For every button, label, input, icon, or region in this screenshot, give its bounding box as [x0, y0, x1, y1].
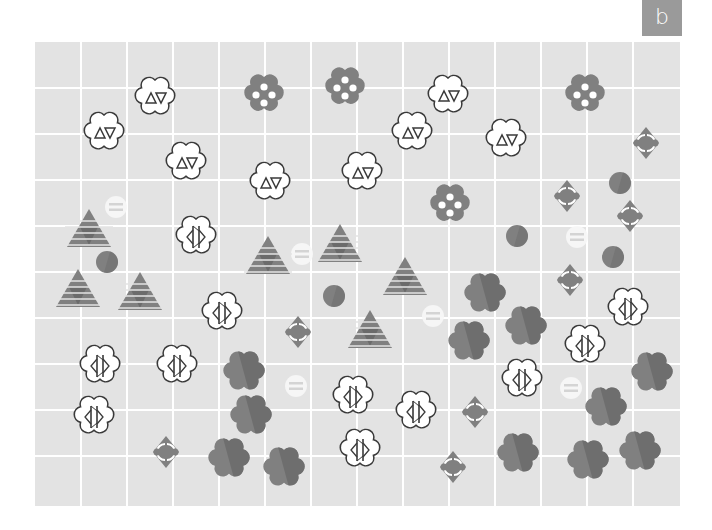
- slash-flower-icon: [202, 292, 241, 328]
- slash-flower-icon: [340, 429, 379, 465]
- striped-circle-icon: [291, 243, 313, 265]
- slash-flower-icon: [74, 396, 113, 432]
- solid-circle-icon: [609, 172, 631, 194]
- striped-circle-icon: [105, 196, 127, 218]
- striped-circle-icon: [560, 377, 582, 399]
- solid-circle-icon: [602, 246, 624, 268]
- slash-flower-icon: [157, 345, 196, 381]
- solid-circle-icon: [506, 225, 528, 247]
- shape-board: [0, 0, 712, 530]
- triangle-flower-icon: [428, 75, 467, 111]
- slash-flower-icon: [502, 359, 541, 395]
- triangle-flower-icon: [392, 112, 431, 148]
- slash-flower-icon: [176, 216, 215, 252]
- triangle-flower-icon: [342, 152, 381, 188]
- slash-flower-icon: [565, 325, 604, 361]
- slash-flower-icon: [80, 345, 119, 381]
- triangle-flower-icon: [135, 77, 174, 113]
- triangle-flower-icon: [250, 162, 289, 198]
- solid-circle-icon: [96, 251, 118, 273]
- solid-circle-icon: [323, 285, 345, 307]
- triangle-flower-icon: [84, 112, 123, 148]
- triangle-flower-icon: [486, 119, 525, 155]
- slash-flower-icon: [333, 376, 372, 412]
- slash-flower-icon: [608, 288, 647, 324]
- striped-circle-icon: [422, 305, 444, 327]
- triangle-flower-icon: [166, 142, 205, 178]
- striped-circle-icon: [285, 375, 307, 397]
- striped-circle-icon: [566, 226, 588, 248]
- slash-flower-icon: [396, 391, 435, 427]
